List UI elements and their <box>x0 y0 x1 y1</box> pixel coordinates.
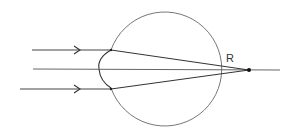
lower-refracted-ray <box>111 70 249 89</box>
eye-ray-diagram: R <box>0 0 293 133</box>
focal-point <box>247 68 251 72</box>
lower-entry-point <box>110 88 112 90</box>
retina-label: R <box>226 52 234 64</box>
upper-entry-point <box>110 49 112 51</box>
